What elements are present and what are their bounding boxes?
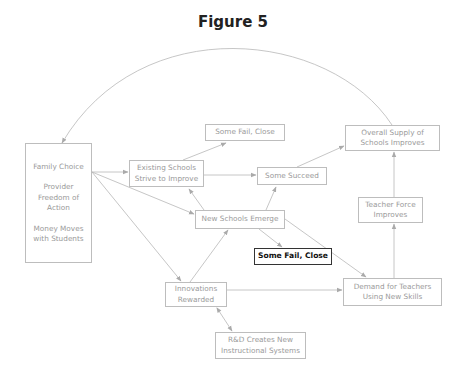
node-label: Existing Schools	[137, 163, 196, 174]
edge-family-to-innovations	[92, 172, 181, 281]
node-some-fail-close-top: Some Fail, Close	[205, 124, 285, 141]
edge-innovations-rnd	[217, 308, 232, 331]
node-innovations-rewarded: Innovations Rewarded	[165, 282, 227, 307]
node-label: Strive to Improve	[135, 174, 198, 185]
node-teacher-force: Teacher Force Improves	[358, 197, 423, 223]
node-overall-supply: Overall Supply of Schools Improves	[345, 125, 440, 151]
node-label: R&D Creates New	[228, 335, 293, 346]
edge-new-to-succeed	[266, 187, 276, 210]
node-label: Provider	[43, 182, 73, 193]
node-some-fail-close-highlighted: Some Fail, Close	[254, 248, 332, 265]
node-label: Improves	[374, 210, 408, 221]
node-label: Some Succeed	[265, 171, 319, 182]
node-some-succeed: Some Succeed	[257, 167, 327, 185]
edge-new-to-fail-bold	[259, 229, 282, 247]
node-label: with Students	[33, 234, 83, 245]
node-label: Family Choice	[33, 162, 84, 173]
node-existing-schools: Existing Schools Strive to Improve	[129, 160, 204, 187]
node-label: Teacher Force	[365, 200, 415, 211]
node-new-schools-emerge: New Schools Emerge	[195, 210, 285, 229]
node-label: Some Fail, Close	[215, 127, 275, 138]
node-label: Freedom of	[38, 193, 79, 204]
node-label: Demand for Teachers	[354, 282, 432, 293]
node-label: Instructional Systems	[221, 346, 300, 357]
node-label: Schools Improves	[360, 138, 424, 149]
node-demand-for-teachers: Demand for Teachers Using New Skills	[343, 278, 442, 306]
node-label: Rewarded	[178, 295, 214, 306]
node-family-choice: Family Choice Provider Freedom of Action…	[25, 143, 92, 263]
node-rnd-instructional-systems: R&D Creates New Instructional Systems	[215, 332, 306, 359]
node-label: Some Fail, Close	[258, 251, 328, 262]
edge-innovations-to-new	[190, 230, 228, 282]
edge-succeed-to-overall	[297, 146, 344, 167]
edge-new-to-existing	[189, 189, 204, 210]
node-label: Money Moves	[34, 224, 84, 235]
edge-existing-to-fail-top	[183, 143, 226, 160]
node-label: Using New Skills	[363, 292, 423, 303]
node-label: New Schools Emerge	[202, 214, 279, 225]
node-label: Overall Supply of	[361, 128, 424, 139]
node-label: Action	[47, 203, 70, 214]
node-label: Innovations	[175, 284, 217, 295]
